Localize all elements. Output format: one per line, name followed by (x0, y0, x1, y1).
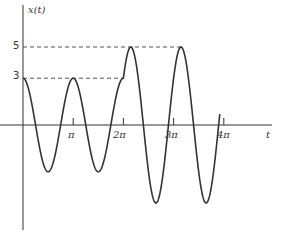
y-tick-label-5: 5 (13, 40, 19, 51)
y-tick-label-3: 3 (13, 70, 19, 81)
x-tick-label-2pi: 2π (113, 129, 126, 140)
x-tick-label-pi: π (68, 129, 75, 140)
y-axis-label: x(t) (28, 4, 45, 15)
x-axis-ticks (73, 118, 224, 125)
reference-lines (23, 47, 181, 78)
chart-canvas (0, 0, 284, 239)
x-axis-label: t (266, 129, 270, 140)
x-tick-label-4pi: 4π (217, 129, 230, 140)
x-tick-label-3pi: 3π (165, 129, 178, 140)
